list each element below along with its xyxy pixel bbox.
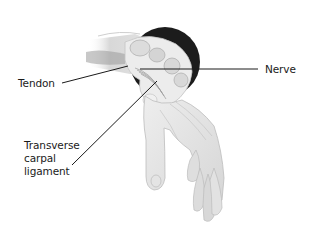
ligament-label-line-2: carpal bbox=[24, 152, 84, 165]
tendon-label: Tendon bbox=[18, 77, 55, 90]
hand bbox=[144, 96, 224, 221]
nerve-label: Nerve bbox=[265, 63, 296, 76]
hand-illustration bbox=[0, 0, 311, 236]
ligament-label-line-1: Transverse bbox=[24, 139, 84, 152]
tendon-leader-line bbox=[62, 66, 128, 83]
ligament-label-line-3: ligament bbox=[24, 165, 84, 178]
transverse-carpal-ligament-label: Transverse carpal ligament bbox=[24, 139, 84, 178]
